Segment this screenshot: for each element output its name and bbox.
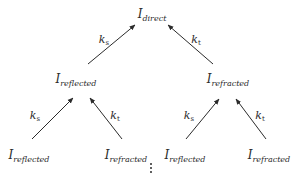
node-direct: Idirect [138, 5, 167, 21]
edge-label-kt-left: kt [110, 106, 120, 122]
node-subscript: refracted [110, 155, 148, 164]
node-subscript: refracted [253, 155, 291, 164]
node-subscript: reflected [13, 155, 49, 164]
node-refracted-leaf-2: Irefracted [105, 146, 147, 162]
label-symbol: k [191, 33, 198, 46]
edge-label-kt-top: kt [191, 30, 201, 46]
node-refracted-leaf-4: Irefracted [248, 146, 290, 162]
edge-label-kt-right: kt [255, 106, 265, 122]
edge-label-ks-left: ks [30, 106, 40, 122]
label-subscript: s [37, 115, 41, 123]
node-reflected-level1: Ireflected [56, 70, 97, 86]
node-refracted-level1: Irefracted [207, 70, 249, 86]
arrow-reflected-to-direct [88, 25, 135, 64]
node-subscript: direct [142, 14, 166, 23]
vertical-ellipsis-icon [150, 163, 152, 173]
label-symbol: k [184, 109, 191, 122]
edge-label-ks-top: ks [99, 30, 109, 46]
node-reflected-leaf-3: Ireflected [165, 146, 206, 162]
ray-tree-diagram: Idirect Ireflected Irefracted Ireflected… [0, 0, 299, 181]
node-subscript: reflected [60, 79, 96, 88]
node-subscript: reflected [169, 155, 205, 164]
edge-label-ks-right: ks [184, 106, 194, 122]
label-subscript: t [262, 115, 265, 123]
label-subscript: s [106, 39, 110, 47]
label-subscript: t [198, 39, 201, 47]
node-reflected-leaf-1: Ireflected [9, 146, 50, 162]
label-subscript: t [117, 115, 120, 123]
node-subscript: refracted [212, 79, 250, 88]
label-symbol: k [30, 109, 37, 122]
label-subscript: s [191, 115, 195, 123]
label-symbol: k [255, 109, 262, 122]
label-symbol: k [110, 109, 117, 122]
label-symbol: k [99, 33, 106, 46]
